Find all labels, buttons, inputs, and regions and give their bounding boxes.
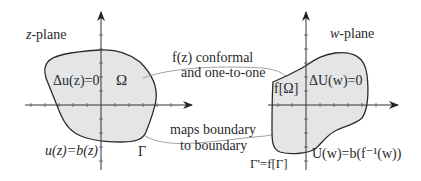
conformal-map-diagram: z-plane Δu(z)=0 Ω u(z)=b(z) Γ f(z) confo… bbox=[0, 0, 421, 181]
z-laplace-equation: Δu(z)=0 bbox=[53, 73, 99, 89]
z-plane: z-plane Δu(z)=0 Ω u(z)=b(z) Γ bbox=[25, 12, 192, 170]
w-boundary-condition: U(w)=b(f⁻¹(w)) bbox=[312, 146, 402, 162]
w-plane-title: w-plane bbox=[330, 26, 374, 41]
boundary-label-line2: to boundary bbox=[180, 138, 247, 153]
conformal-label-line1: f(z) conformal bbox=[172, 50, 253, 66]
region-omega-label: Ω bbox=[116, 72, 127, 88]
gamma-prime-label: Γ'=f[Γ] bbox=[250, 156, 288, 171]
region-omega bbox=[45, 50, 157, 142]
mapping-connectors: f(z) conformal and one-to-one maps bound… bbox=[143, 50, 291, 153]
z-plane-title: z-plane bbox=[25, 27, 66, 42]
region-f-omega-label: f[Ω] bbox=[274, 81, 298, 96]
boundary-label-line1: maps boundary bbox=[170, 122, 256, 137]
w-laplace-equation: ΔU(w)=0 bbox=[309, 73, 362, 89]
conformal-label-line2: and one-to-one bbox=[181, 65, 265, 80]
gamma-label: Γ bbox=[138, 144, 146, 159]
z-boundary-condition: u(z)=b(z) bbox=[45, 143, 98, 159]
w-plane: w-plane ΔU(w)=0 f[Ω] Γ'=f[Γ] U(w)=b(f⁻¹(… bbox=[250, 12, 402, 171]
